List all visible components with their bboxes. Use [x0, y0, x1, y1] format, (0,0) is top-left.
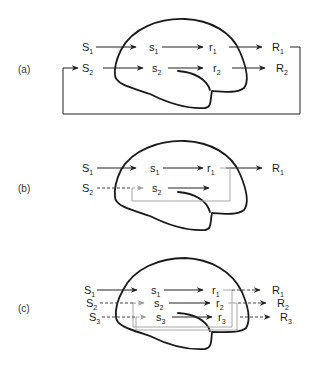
brain-fold-b — [178, 192, 210, 212]
internal-response-label: r3 — [218, 311, 226, 325]
internal-response-label: r1 — [207, 162, 215, 176]
internal-response-label: r1 — [212, 284, 220, 298]
sensory-label: s1 — [151, 284, 161, 298]
stimulus-label: S1 — [82, 41, 93, 55]
internal-response-label: r2 — [216, 297, 224, 311]
feedback-loop-b — [132, 168, 230, 201]
stimulus-label: S1 — [84, 284, 95, 298]
sensory-label: s2 — [154, 297, 164, 311]
response-label: R2 — [276, 62, 288, 76]
stimulus-label: S2 — [82, 182, 93, 196]
row-c-1: S1 s1 r1 R1 — [84, 284, 284, 298]
response-label: R2 — [277, 297, 289, 311]
stimulus-label: S2 — [82, 62, 93, 76]
sensory-label: s2 — [152, 62, 162, 76]
sensory-label: s1 — [150, 162, 160, 176]
sensory-label: s2 — [152, 182, 162, 196]
stimulus-label: S2 — [86, 297, 97, 311]
response-label: R1 — [272, 41, 284, 55]
feedback-loop-a — [63, 47, 300, 114]
sensory-label: s3 — [156, 311, 166, 325]
panel-label-c: (c) — [18, 303, 30, 314]
panel-c: (c) S1 s1 r1 R1 S2 s2 r2 R2 S — [18, 258, 292, 349]
response-label: R1 — [272, 284, 284, 298]
response-label: R3 — [280, 311, 292, 325]
internal-response-label: r2 — [213, 62, 221, 76]
brain-fold-a — [178, 71, 210, 90]
stimulus-label: S1 — [82, 162, 93, 176]
stimulus-label: S3 — [89, 311, 100, 325]
brain-outline-a — [115, 19, 247, 108]
brain-outline-c — [116, 258, 249, 349]
brain-fold-c — [178, 313, 210, 331]
panel-a: (a) S1 s1 r1 R1 S2 s2 r2 R2 — [18, 19, 300, 114]
row-a-1: S1 s1 r1 R1 — [82, 41, 284, 55]
brain-outline-b — [115, 141, 247, 230]
panel-label-b: (b) — [18, 183, 30, 194]
row-b-1: S1 s1 r1 R1 — [82, 162, 284, 176]
panel-b: (b) S1 s1 r1 R1 S2 s2 — [18, 141, 284, 230]
diagram-figure: (a) S1 s1 r1 R1 S2 s2 r2 R2 (b) — [0, 0, 316, 372]
internal-response-label: r1 — [209, 41, 217, 55]
sensory-label: s1 — [149, 41, 159, 55]
panel-label-a: (a) — [18, 64, 30, 75]
row-a-2: S2 s2 r2 R2 — [82, 62, 288, 76]
response-label: R1 — [272, 162, 284, 176]
